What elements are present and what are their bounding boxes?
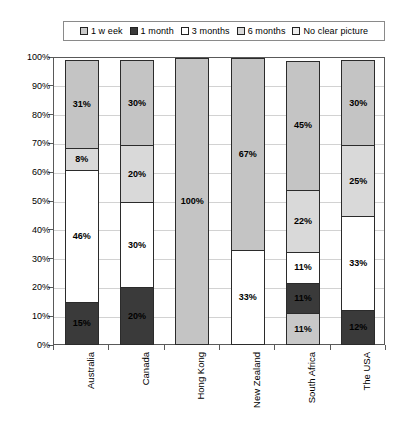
- gridline: [54, 317, 384, 318]
- bar-segment-label: 11%: [294, 263, 312, 272]
- y-axis-tick-label: 50%: [10, 197, 50, 206]
- bar-segment[interactable]: 30%: [120, 202, 154, 288]
- x-axis-tick: [274, 345, 275, 350]
- bar-column: 33%67%: [231, 58, 265, 344]
- stacked-bar[interactable]: 12%33%25%30%: [341, 58, 375, 344]
- legend-item[interactable]: 3 months: [181, 26, 230, 36]
- bar-segment[interactable]: 33%: [231, 250, 265, 345]
- gridline: [54, 144, 384, 145]
- bar-segment-label: 20%: [128, 170, 146, 179]
- bar-segment-label: 11%: [294, 294, 312, 303]
- bar-segment[interactable]: 30%: [120, 60, 154, 146]
- gridline: [54, 288, 384, 289]
- bar-segment[interactable]: 25%: [341, 145, 375, 217]
- bar-segment-label: 31%: [73, 100, 91, 109]
- plot-area: 15%46%8%31%20%30%20%30%100%33%67%11%11%1…: [53, 57, 385, 345]
- stacked-bar[interactable]: 20%30%20%30%: [120, 58, 154, 344]
- bar-segment[interactable]: 46%: [65, 170, 99, 302]
- legend-item-label: 6 months: [248, 26, 286, 36]
- x-axis-category-label: New Zealand: [252, 352, 262, 408]
- stacked-bar[interactable]: 33%67%: [231, 58, 265, 344]
- legend-item[interactable]: No clear picture: [292, 26, 368, 36]
- x-axis-category-label: Hong Kong: [196, 352, 206, 400]
- gridline: [54, 259, 384, 260]
- y-axis-tick-label: 70%: [10, 139, 50, 148]
- legend-item-label: 1 w eek: [91, 26, 123, 36]
- legend-swatch-icon: [292, 27, 300, 35]
- bar-segment-label: 46%: [73, 232, 91, 241]
- legend-item[interactable]: 1 w eek: [80, 26, 123, 36]
- x-axis-category-label: The USA: [362, 352, 372, 391]
- bar-segment[interactable]: 33%: [341, 216, 375, 311]
- gridline: [54, 86, 384, 87]
- y-axis-tick-label: 60%: [10, 168, 50, 177]
- gridline: [54, 173, 384, 174]
- stacked-bar-chart: 1 w eek1 month3 months6 monthsNo clear p…: [0, 0, 410, 438]
- bar-segment-label: 30%: [128, 241, 146, 250]
- stacked-bar[interactable]: 15%46%8%31%: [65, 58, 99, 344]
- y-axis-tick-label: 80%: [10, 110, 50, 119]
- bar-segment[interactable]: 67%: [231, 58, 265, 251]
- bar-segment-label: 25%: [349, 177, 367, 186]
- gridline: [54, 230, 384, 231]
- y-axis-tick-label: 40%: [10, 225, 50, 234]
- y-axis-tick-label: 20%: [10, 283, 50, 292]
- bar-segment[interactable]: 100%: [175, 58, 209, 345]
- gridline: [54, 115, 384, 116]
- bar-segment-label: 33%: [349, 259, 367, 268]
- bar-column: 20%30%20%30%: [120, 58, 154, 344]
- chart-legend: 1 w eek1 month3 months6 monthsNo clear p…: [63, 21, 385, 41]
- legend-item-label: 1 month: [141, 26, 174, 36]
- x-axis-category-label: South Africa: [307, 352, 317, 403]
- legend-swatch-icon: [237, 27, 245, 35]
- legend-swatch-icon: [130, 27, 138, 35]
- y-axis-tick-label: 100%: [10, 53, 50, 62]
- bar-segment-label: 30%: [349, 99, 367, 108]
- bar-segment[interactable]: 15%: [65, 302, 99, 345]
- bar-segment[interactable]: 8%: [65, 148, 99, 171]
- bar-segment[interactable]: 22%: [286, 190, 320, 253]
- x-axis-tick: [164, 345, 165, 350]
- bar-segment-label: 45%: [294, 121, 312, 130]
- bar-segment[interactable]: 31%: [65, 60, 99, 149]
- x-axis-tick: [385, 345, 386, 350]
- bar-segment-label: 11%: [294, 325, 312, 334]
- legend-item-label: No clear picture: [303, 26, 368, 36]
- legend-item[interactable]: 1 month: [130, 26, 174, 36]
- bar-segment[interactable]: 30%: [341, 60, 375, 146]
- bar-column: 15%46%8%31%: [65, 58, 99, 344]
- bar-segment-label: 67%: [239, 150, 257, 159]
- x-axis-tick: [330, 345, 331, 350]
- bar-segment[interactable]: 11%: [286, 313, 320, 345]
- stacked-bar[interactable]: 100%: [175, 58, 209, 344]
- bar-segment-label: 100%: [181, 197, 204, 206]
- y-axis-tick-label: 10%: [10, 312, 50, 321]
- x-axis-tick: [219, 345, 220, 350]
- bar-segment[interactable]: 20%: [120, 145, 154, 203]
- bar-segment[interactable]: 45%: [286, 61, 320, 191]
- x-axis-category-label: Canada: [141, 352, 151, 385]
- bar-segment[interactable]: 12%: [341, 310, 375, 345]
- y-axis-tick-label: 0%: [10, 341, 50, 350]
- bar-column: 100%: [175, 58, 209, 344]
- y-axis-tick-label: 90%: [10, 81, 50, 90]
- bar-column: 11%11%11%22%45%: [286, 58, 320, 344]
- bar-segment-label: 22%: [294, 217, 312, 226]
- stacked-bar[interactable]: 11%11%11%22%45%: [286, 58, 320, 344]
- y-axis-tick-label: 30%: [10, 254, 50, 263]
- bar-segment-label: 33%: [239, 293, 257, 302]
- bar-segment[interactable]: 11%: [286, 252, 320, 284]
- bar-segment-label: 20%: [128, 312, 146, 321]
- bar-segment[interactable]: 20%: [120, 287, 154, 345]
- legend-item-label: 3 months: [192, 26, 230, 36]
- bar-column: 12%33%25%30%: [341, 58, 375, 344]
- bar-segment[interactable]: 11%: [286, 283, 320, 315]
- x-axis-category-label: Australia: [86, 352, 96, 389]
- legend-swatch-icon: [181, 27, 189, 35]
- legend-swatch-icon: [80, 27, 88, 35]
- bar-segment-label: 15%: [73, 319, 91, 328]
- x-axis-tick: [53, 345, 54, 350]
- bar-segment-label: 12%: [349, 323, 367, 332]
- legend-item[interactable]: 6 months: [237, 26, 286, 36]
- bar-segment-label: 30%: [128, 99, 146, 108]
